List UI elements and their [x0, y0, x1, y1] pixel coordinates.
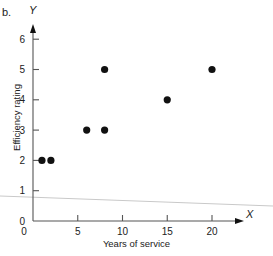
data-point	[101, 127, 108, 134]
data-point	[47, 157, 54, 164]
data-point	[83, 127, 90, 134]
plot-canvas: 0123456 05101520	[0, 0, 273, 256]
x-tick-label: 20	[206, 226, 218, 237]
data-point	[38, 157, 45, 164]
x-tick-label: 15	[162, 226, 174, 237]
scan-artifact-rule	[0, 196, 273, 206]
y-tick-label: 2	[19, 155, 25, 166]
y-tick-label: 6	[19, 34, 25, 45]
y-tick-label: 1	[19, 185, 25, 196]
data-point	[101, 66, 108, 73]
data-point	[164, 96, 171, 103]
x-axis-ticks: 05101520	[21, 215, 218, 237]
x-tick-label: 10	[117, 226, 129, 237]
y-tick-label: 4	[19, 94, 25, 105]
axes-layer	[30, 24, 244, 224]
data-points-layer	[38, 66, 215, 164]
scatter-plot-figure: b. Y X Efficiency rating Years of servic…	[0, 0, 273, 256]
y-tick-label: 5	[19, 64, 25, 75]
scan-artifact-layer	[0, 196, 273, 206]
x-tick-label: 5	[75, 226, 81, 237]
data-point	[208, 66, 215, 73]
y-axis-arrowhead	[30, 24, 36, 33]
x-axis-arrowhead	[235, 218, 244, 224]
y-tick-label: 3	[19, 125, 25, 136]
x-tick-label: 0	[21, 226, 27, 237]
y-tick-label: 0	[19, 216, 25, 227]
